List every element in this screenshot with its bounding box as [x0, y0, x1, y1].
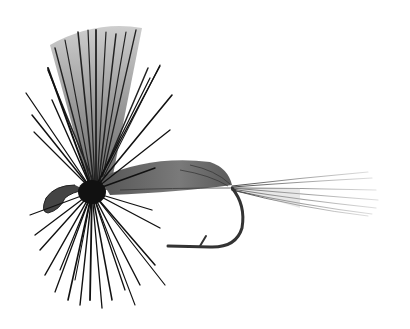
hook [168, 188, 243, 247]
hackle-core [78, 180, 106, 204]
fly-body [100, 160, 232, 195]
tail [232, 172, 378, 216]
dry-fly-illustration [0, 0, 410, 329]
